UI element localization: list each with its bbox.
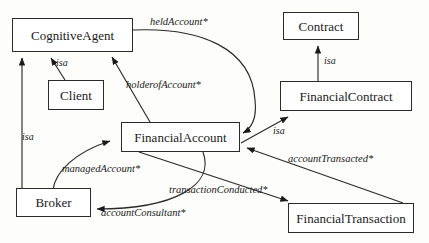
edge-label-text: managedAccount* [62, 163, 140, 174]
edge-label-text: accountConsultant* [101, 207, 186, 218]
edge-label-held-account: heldAccount* [150, 16, 208, 27]
node-label: FinancialTransaction [296, 212, 405, 225]
edge-label-text: isa [273, 125, 285, 136]
node-client[interactable]: Client [48, 80, 104, 110]
edge-label-text: isa [324, 55, 336, 66]
node-financial-account[interactable]: FinancialAccount [121, 122, 240, 152]
edge-label-text: holderofAccount* [126, 79, 201, 90]
edge-label-managed-account: managedAccount* [62, 163, 140, 174]
node-financial-transaction[interactable]: FinancialTransaction [288, 203, 414, 233]
edge-label-text: accountTransacted* [288, 153, 373, 164]
node-label: CognitiveAgent [31, 29, 114, 42]
edge-label-isa-account: isa [273, 125, 285, 136]
edge-label-transaction-conducted: transactionConducted* [169, 184, 268, 195]
node-label: Client [60, 89, 92, 102]
edge-label-account-consultant: accountConsultant* [101, 207, 186, 218]
edge-label-isa-client: isa [56, 57, 68, 68]
edge-label-holder-of-account: holderofAccount* [126, 79, 201, 90]
edge-account-consultant [97, 152, 205, 209]
node-label: Contract [299, 20, 344, 33]
node-contract[interactable]: Contract [283, 12, 359, 40]
edge-label-text: isa [56, 57, 68, 68]
edge-label-isa-broker: isa [22, 131, 34, 142]
edge-label-text: heldAccount* [150, 16, 208, 27]
node-cognitive-agent[interactable]: CognitiveAgent [12, 18, 133, 52]
node-broker[interactable]: Broker [16, 188, 91, 217]
uml-diagram-canvas: CognitiveAgent Client Broker FinancialAc… [0, 0, 429, 243]
edge-label-text: isa [22, 131, 34, 142]
node-label: FinancialContract [299, 90, 392, 103]
edge-label-account-transacted: accountTransacted* [288, 153, 373, 164]
edge-label-isa-contract: isa [324, 55, 336, 66]
node-financial-contract[interactable]: FinancialContract [280, 81, 412, 111]
node-label: FinancialAccount [134, 131, 226, 144]
edge-label-text: transactionConducted* [169, 184, 268, 195]
node-label: Broker [35, 196, 71, 209]
